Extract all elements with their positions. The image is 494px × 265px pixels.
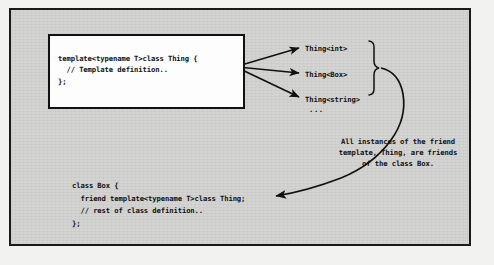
instance-label-thing-int: Thing<int> [305,44,347,53]
template-definition-code: template<typename T>class Thing { // Tem… [58,53,198,87]
annotation-line-2: template, Thing, are friends [327,147,469,158]
annotation-text: All instances of the friend template, Th… [327,136,469,169]
instance-label-ellipsis: ... [309,105,324,114]
class-box-code: class Box { friend template<typename T>c… [72,180,245,230]
annotation-line-3: of the class Box. [327,158,469,169]
annotation-line-1: All instances of the friend [327,136,469,147]
instance-label-thing-string: Thing<string> [305,95,360,104]
template-definition-box: template<typename T>class Thing { // Tem… [48,34,245,109]
instance-label-thing-box: Thing<Box> [305,70,347,79]
